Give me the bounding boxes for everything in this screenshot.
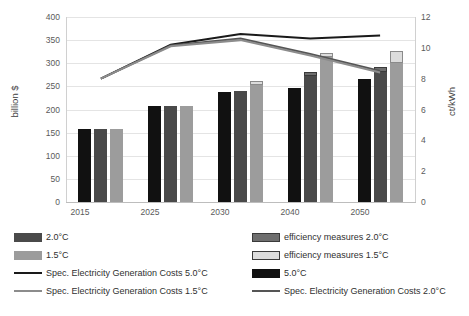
- legend-item-label: Spec. Electricity Generation Costs 2.0°C: [284, 286, 446, 297]
- legend-item[interactable]: 5.0°C: [252, 264, 469, 282]
- y-tick-left-300: 300: [26, 59, 60, 68]
- legend-line-marker: [252, 290, 280, 292]
- y-tick-left-100: 100: [26, 152, 60, 161]
- y-tick-right-12: 12: [421, 13, 451, 22]
- legend-swatch-icon: [252, 251, 280, 260]
- legend-column-left: 2.0°C1.5°CSpec. Electricity Generation C…: [14, 228, 246, 300]
- y-tick-left-250: 250: [26, 82, 60, 91]
- legend-item[interactable]: efficiency measures 2.0°C: [252, 228, 469, 246]
- legend-swatch-icon: [252, 233, 280, 242]
- legend-item[interactable]: Spec. Electricity Generation Costs 5.0°C: [14, 264, 246, 282]
- legend-item-label: 2.0°C: [46, 232, 69, 243]
- y-axis-right-line: [415, 17, 416, 203]
- chart-legend: 2.0°C1.5°CSpec. Electricity Generation C…: [14, 228, 462, 308]
- legend-item[interactable]: Spec. Electricity Generation Costs 2.0°C: [252, 282, 469, 300]
- y-axis-left-title: billion $: [9, 72, 20, 132]
- x-tick-2040: 2040: [260, 207, 320, 217]
- legend-item-label: efficiency measures 2.0°C: [284, 232, 388, 243]
- legend-item[interactable]: Spec. Electricity Generation Costs 1.5°C: [14, 282, 246, 300]
- legend-line-marker: [14, 290, 42, 292]
- legend-swatch-icon: [14, 233, 42, 242]
- legend-item[interactable]: efficiency measures 1.5°C: [252, 246, 469, 264]
- y-tick-left-150: 150: [26, 129, 60, 138]
- legend-item-label: 1.5°C: [46, 250, 69, 261]
- legend-item-label: Spec. Electricity Generation Costs 1.5°C: [46, 286, 208, 297]
- legend-item-label: efficiency measures 1.5°C: [284, 250, 388, 261]
- legend-column-right: efficiency measures 2.0°Cefficiency meas…: [252, 228, 469, 300]
- y-tick-right-4: 4: [421, 136, 451, 145]
- y-tick-left-200: 200: [26, 106, 60, 115]
- legend-item[interactable]: 2.0°C: [14, 228, 246, 246]
- legend-swatch-icon: [14, 251, 42, 260]
- legend-item-label: 5.0°C: [284, 268, 307, 279]
- chart-root: 400 350 300 250 200 150 100 50 0 12 10 8…: [0, 0, 469, 316]
- legend-item[interactable]: 1.5°C: [14, 246, 246, 264]
- x-tick-2050: 2050: [330, 207, 390, 217]
- legend-item-label: Spec. Electricity Generation Costs 5.0°C: [46, 268, 208, 279]
- legend-line-marker: [14, 272, 42, 274]
- y-tick-right-0: 0: [421, 198, 451, 207]
- y-tick-left-350: 350: [26, 36, 60, 45]
- y-tick-left-0: 0: [26, 198, 60, 207]
- x-tick-2030: 2030: [190, 207, 250, 217]
- legend-swatch-icon: [252, 269, 280, 278]
- y-tick-left-50: 50: [26, 175, 60, 184]
- x-tick-2025: 2025: [120, 207, 180, 217]
- y-tick-left-400: 400: [26, 13, 60, 22]
- y-tick-right-10: 10: [421, 44, 451, 53]
- y-tick-right-2: 2: [421, 167, 451, 176]
- x-tick-2015: 2015: [50, 207, 110, 217]
- lines-layer: [66, 17, 415, 202]
- line-Spec.-Electricity-Generation-Costs-1.5-C: [101, 40, 380, 79]
- y-axis-right-title: ct/kWh: [446, 72, 457, 132]
- x-axis-line: [66, 202, 416, 203]
